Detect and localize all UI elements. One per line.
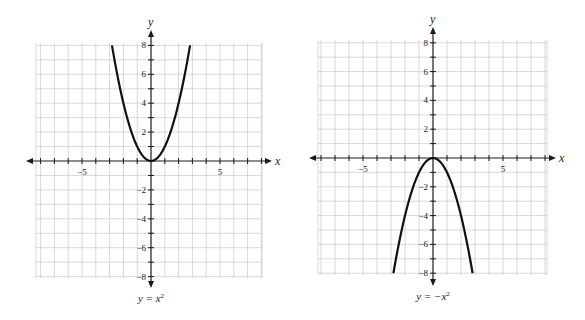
graph-caption: y = x2 xyxy=(137,292,165,304)
x-tick-label: 5 xyxy=(218,167,223,177)
graph-y-equals-negative-x-squared: −558642−2−4−6−8xyy = −x2 xyxy=(309,12,565,302)
y-tick-label: −2 xyxy=(136,185,146,195)
graph-caption: y = −x2 xyxy=(415,290,450,302)
y-axis-label: y xyxy=(429,12,436,26)
y-tick-label: 6 xyxy=(424,67,429,77)
x-axis-arrow-left-icon xyxy=(26,158,33,164)
y-tick-label: 2 xyxy=(424,124,429,134)
y-tick-label: 4 xyxy=(424,95,429,105)
y-tick-label: −4 xyxy=(136,214,146,224)
y-tick-label: −8 xyxy=(418,268,428,278)
y-tick-label: −2 xyxy=(418,182,428,192)
graph-y-equals-x-squared: −558642−2−4−6−8xyy = x2 xyxy=(26,15,281,304)
y-tick-label: −6 xyxy=(418,239,428,249)
x-tick-label: −5 xyxy=(77,167,87,177)
x-axis-label: x xyxy=(558,151,565,165)
x-axis-arrow-left-icon xyxy=(309,155,316,161)
y-axis-arrow-down-icon xyxy=(148,281,154,288)
x-tick-label: 5 xyxy=(501,164,506,174)
y-tick-label: −4 xyxy=(418,211,428,221)
y-tick-label: 4 xyxy=(142,98,147,108)
y-tick-label: −6 xyxy=(136,243,146,253)
y-axis-arrow-up-icon xyxy=(148,30,154,37)
y-tick-label: 6 xyxy=(142,69,147,79)
y-axis-label: y xyxy=(147,15,154,29)
x-tick-label: −5 xyxy=(358,164,368,174)
graphs-canvas: −558642−2−4−6−8xyy = x2 −558642−2−4−6−8x… xyxy=(0,0,585,320)
x-axis-arrow-right-icon xyxy=(549,155,556,161)
y-tick-label: 8 xyxy=(142,40,147,50)
y-tick-label: 2 xyxy=(142,127,147,137)
x-axis-label: x xyxy=(274,154,281,168)
y-axis-arrow-down-icon xyxy=(430,279,436,286)
y-tick-label: −8 xyxy=(136,272,146,282)
y-tick-label: 8 xyxy=(424,38,429,48)
y-axis-arrow-up-icon xyxy=(430,27,436,34)
x-axis-arrow-right-icon xyxy=(265,158,272,164)
